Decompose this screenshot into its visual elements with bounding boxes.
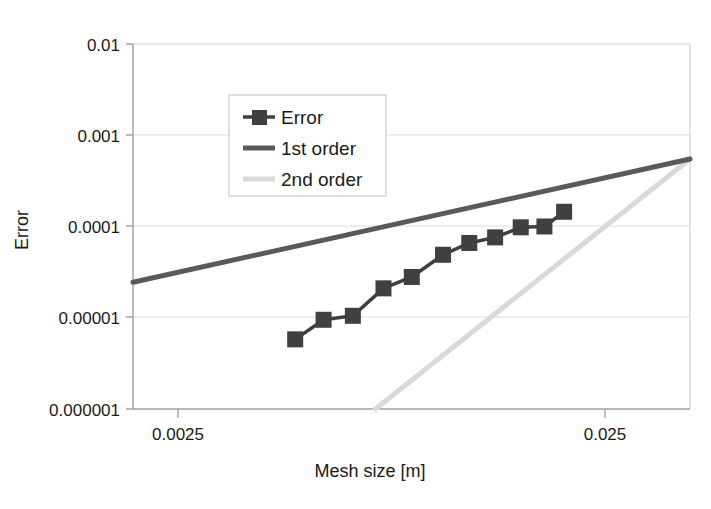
data-point-marker — [461, 235, 477, 251]
data-point-marker — [287, 331, 303, 347]
x-tick-label-1: 0.025 — [584, 425, 627, 444]
legend-item-error[interactable]: Error — [243, 107, 324, 128]
y-tick-label-0: 0.01 — [87, 36, 120, 55]
data-point-marker — [404, 269, 420, 285]
data-point-marker — [513, 219, 529, 235]
data-point-marker — [536, 219, 552, 235]
legend-label-2nd-order: 2nd order — [281, 169, 363, 190]
y-axis-ticks — [126, 44, 133, 409]
x-tick-label-0: 0.0025 — [152, 425, 204, 444]
legend-label-1st-order: 1st order — [281, 138, 357, 159]
data-point-marker — [316, 312, 332, 328]
data-point-marker — [375, 280, 391, 296]
y-tick-label-4: 0.000001 — [49, 401, 120, 420]
y-tick-label-3: 0.00001 — [59, 309, 120, 328]
error-convergence-chart: 0.01 0.001 0.0001 0.00001 0.000001 0.002… — [0, 0, 711, 509]
y-axis-title: Error — [12, 210, 32, 250]
data-point-marker — [435, 247, 451, 263]
y-tick-label-1: 0.001 — [77, 127, 120, 146]
data-point-marker — [487, 229, 503, 245]
legend-marker-square-icon — [252, 110, 267, 125]
data-point-marker — [556, 204, 572, 220]
legend: Error 1st order 2nd order — [229, 95, 386, 196]
data-point-marker — [345, 308, 361, 324]
x-axis-title: Mesh size [m] — [314, 461, 425, 481]
chart-container: 0.01 0.001 0.0001 0.00001 0.000001 0.002… — [0, 0, 711, 509]
x-axis-ticks — [178, 409, 605, 418]
legend-label-error: Error — [281, 107, 324, 128]
y-tick-label-2: 0.0001 — [68, 218, 120, 237]
